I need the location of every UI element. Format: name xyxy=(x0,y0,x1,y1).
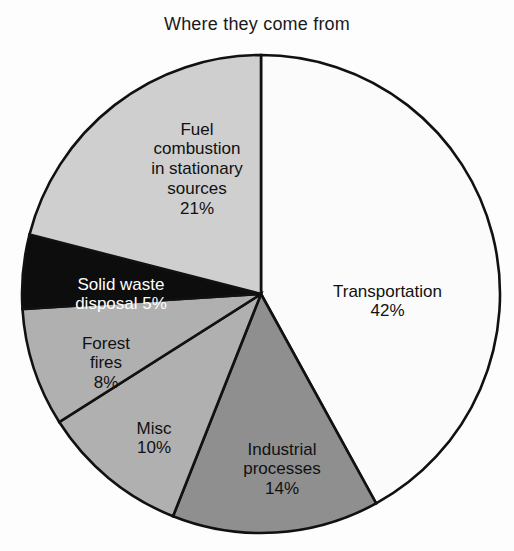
pie-chart-figure: Where they come from Transportation 42% … xyxy=(0,0,514,551)
pie-slices-group xyxy=(22,55,500,533)
pie-chart-svg xyxy=(0,0,514,551)
